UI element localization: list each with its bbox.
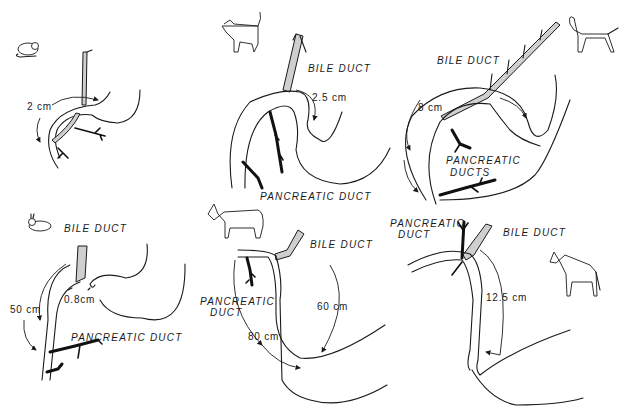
duodenum-cow	[238, 250, 387, 403]
measurement-horse: 12.5 cm	[486, 292, 527, 303]
label-pancreatic-cow: PANCREATIC	[200, 296, 275, 307]
pancreatic-duct-cat	[243, 112, 283, 188]
panel-cat: 2.5 cm BILE DUCT PANCREATIC DUCT	[222, 12, 390, 202]
measurement-rat: 2 cm	[27, 101, 52, 112]
panel-horse: 12.5 cm PANCREATIC DUCT BILE DUCT	[390, 218, 600, 405]
label-pancreatic-dog: PANCREATIC	[446, 155, 521, 166]
panel-rat: 2 cm	[16, 43, 140, 169]
label-bile-duct-horse: BILE DUCT	[503, 227, 566, 238]
rabbit-icon	[29, 214, 52, 231]
measurement-dog: 8 cm	[418, 102, 443, 113]
label-bile-duct-cat: BILE DUCT	[308, 63, 371, 74]
bile-duct-cat	[283, 34, 306, 92]
label-bile-duct-cow: BILE DUCT	[310, 239, 373, 250]
horse-icon	[550, 252, 600, 296]
label-pancreatic-duct-cat: PANCREATIC DUCT	[260, 191, 372, 202]
bile-duct-dog	[441, 22, 560, 120]
label-pancreatic-duct-rabbit: PANCREATIC DUCT	[71, 332, 183, 343]
measurement-rabbit-long: 50 cm	[10, 304, 41, 315]
cat-icon	[222, 12, 261, 52]
bile-duct-horse	[463, 224, 492, 260]
duodenum-rabbit	[42, 244, 185, 380]
measurement-cat: 2.5 cm	[312, 92, 347, 103]
panel-rabbit: 0.8cm 50 cm BILE DUCT PANCREATIC DUCT	[10, 214, 185, 380]
label-bile-duct-rabbit: BILE DUCT	[64, 223, 127, 234]
measurement-rabbit-short: 0.8cm	[64, 294, 95, 305]
rat-icon	[16, 43, 38, 58]
pancreatic-duct-rabbit	[47, 340, 102, 372]
pancreatic-duct-cow	[246, 258, 255, 285]
bile-duct-cow	[275, 230, 304, 260]
label-duct-horse: DUCT	[398, 229, 431, 240]
panel-cow: 60 cm 80 cm BILE DUCT PANCREATIC DUCT	[200, 204, 387, 403]
cow-icon	[208, 204, 263, 238]
duodenum-horse	[408, 251, 583, 405]
label-ducts-dog: DUCTS	[450, 167, 490, 178]
measurement-cow-short: 60 cm	[317, 301, 348, 312]
label-duct-cow: DUCT	[210, 307, 243, 318]
dog-icon	[570, 17, 619, 52]
duct-anatomy-figure: 2 cm 2.5 cm BILE DUCT PANCREATIC DUCT	[0, 0, 630, 415]
duodenum-rat	[49, 90, 140, 168]
label-bile-duct-dog: BILE DUCT	[437, 55, 500, 66]
panel-dog: 8 cm BILE DUCT PANCREATIC DUCTS	[404, 17, 618, 204]
measurement-cow-long: 80 cm	[248, 331, 279, 342]
bile-duct-rabbit	[76, 246, 87, 282]
label-pancreatic-horse: PANCREATIC	[390, 218, 465, 229]
